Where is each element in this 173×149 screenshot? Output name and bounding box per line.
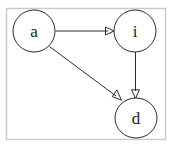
edge-i-to-d-arrowhead [132, 90, 140, 99]
edge-a-to-i [56, 27, 115, 35]
graph-diagram: a i d [0, 0, 173, 149]
node-a-label: a [30, 22, 38, 41]
node-a[interactable]: a [13, 10, 55, 52]
node-i-label: i [133, 22, 138, 41]
node-i[interactable]: i [114, 10, 156, 52]
edge-a-to-d-line [50, 47, 117, 97]
edge-a-to-d [50, 47, 122, 101]
edge-i-to-d [132, 52, 140, 99]
edge-a-to-d-arrowhead [112, 90, 121, 100]
node-d-label: d [132, 109, 141, 128]
node-d[interactable]: d [115, 98, 157, 138]
